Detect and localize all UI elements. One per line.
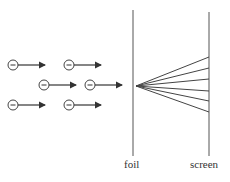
diagram-canvas — [0, 0, 230, 182]
foil-label: foil — [124, 158, 139, 170]
electron — [85, 80, 122, 90]
electron — [8, 60, 45, 70]
scattered-ray — [136, 57, 209, 86]
electron — [39, 80, 76, 90]
electron — [64, 60, 101, 70]
electron — [8, 100, 45, 110]
electron — [64, 100, 101, 110]
scattered-ray — [136, 68, 209, 86]
electron-beam — [8, 60, 122, 110]
scattered-rays — [136, 57, 209, 112]
scattered-ray — [136, 79, 209, 86]
screen-label: screen — [190, 158, 218, 170]
